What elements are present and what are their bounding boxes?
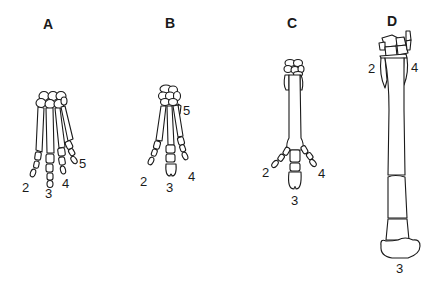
digit-2-b	[147, 140, 161, 165]
carpals-a	[36, 92, 67, 109]
digit-label-2-a: 2	[22, 180, 29, 195]
hoof-bone-d	[381, 238, 420, 258]
panel-label-d: D	[387, 13, 397, 29]
panel-label-a: A	[43, 16, 53, 32]
digit-4-b	[177, 136, 189, 160]
second-phalanx-d	[386, 219, 409, 240]
first-phalanx-d	[388, 176, 407, 219]
digit-label-3-b: 3	[166, 180, 173, 195]
digit-label-4-a: 4	[62, 176, 69, 191]
carpals-d	[379, 31, 411, 60]
digit-label-2-d: 2	[368, 61, 375, 76]
cannon-bone-d	[385, 58, 405, 175]
digit-4-c	[300, 145, 317, 168]
digit-3-b	[166, 145, 176, 176]
panel-a: A	[22, 16, 86, 201]
panel-c: C 2 4 3	[262, 15, 325, 208]
digit-4-a	[57, 147, 66, 174]
digit-label-4-c: 4	[318, 166, 325, 181]
digit-label-5-a: 5	[79, 156, 86, 171]
digit-label-2-c: 2	[262, 165, 269, 180]
digit-3-c	[289, 150, 302, 189]
limb-evolution-diagram: A	[0, 0, 437, 281]
digit-label-5-b: 5	[183, 103, 190, 118]
carpals-c	[284, 60, 304, 77]
digit-label-3-d: 3	[396, 261, 403, 276]
panel-b: B 5	[140, 15, 195, 195]
panel-label-c: C	[287, 15, 297, 31]
digit-label-4-d: 4	[411, 60, 418, 75]
splint-bone-left-c	[284, 75, 289, 90]
digit-label-2-b: 2	[140, 174, 147, 189]
digit-3-a	[46, 154, 54, 188]
digit-label-3-c: 3	[291, 193, 298, 208]
digit-label-3-a: 3	[45, 186, 52, 201]
panel-d: D 2 4 3	[368, 13, 420, 276]
digit-5-a	[65, 140, 79, 165]
digit-2-a	[29, 152, 41, 178]
panel-label-b: B	[165, 15, 175, 31]
digit-label-4-b: 4	[188, 169, 195, 184]
digit-2-c	[271, 147, 291, 169]
